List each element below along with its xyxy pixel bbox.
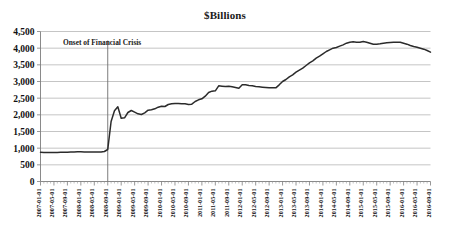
x-tick-label: 2016-01-01 [398,189,405,218]
data-series [41,42,431,153]
x-tick-label: 2010-09-01 [182,189,189,218]
x-tick-label: 2013-09-01 [303,189,310,218]
x-tick-label: 2007-05-01 [48,189,55,218]
x-tick-label: 2011-01-01 [196,189,203,218]
y-axis: 05001,0001,5002,0002,5003,0003,5004,0004… [13,27,430,187]
x-tick-label: 2008-05-01 [88,189,95,218]
x-tick-label: 2009-01-01 [115,189,122,218]
crisis-marker: Onset of Financial Crisis [63,38,141,182]
x-tick-label: 2015-09-01 [384,189,391,218]
x-tick-label: 2011-09-01 [223,189,230,218]
x-tick-label: 2009-09-01 [142,189,149,218]
x-tick-label: 2014-05-01 [330,189,337,218]
x-tick-label: 2007-09-01 [61,189,68,218]
x-tick-label: 2008-01-01 [75,189,82,218]
x-axis: 2007-01-012007-05-012007-09-012008-01-01… [35,182,432,218]
x-tick-label: 2007-01-01 [35,189,42,218]
x-tick-label: 2015-01-01 [357,189,364,218]
x-tick-label: 2012-09-01 [263,189,270,218]
x-tick-label: 2016-09-01 [425,189,432,218]
x-tick-label: 2008-09-01 [102,189,109,218]
x-tick-label: 2012-05-01 [250,189,257,218]
chart-plot-area: 05001,0001,5002,0002,5003,0003,5004,0004… [0,0,450,236]
series-line [41,42,431,153]
annotation-label: Onset of Financial Crisis [63,38,141,47]
y-tick-label: 1,000 [13,144,35,154]
x-tick-label: 2010-01-01 [156,189,163,218]
y-tick-label: 500 [20,160,35,170]
y-tick-label: 3,000 [13,77,35,87]
x-tick-label: 2009-05-01 [129,189,136,218]
y-tick-label: 3,500 [13,60,35,70]
y-tick-label: 1,500 [13,127,35,137]
y-tick-label: 2,500 [13,94,35,104]
y-tick-label: 2,000 [13,110,35,120]
y-tick-label: 4,000 [13,44,35,54]
x-tick-label: 2015-05-01 [371,189,378,218]
x-tick-label: 2011-05-01 [209,189,216,218]
gridlines [41,32,431,165]
x-tick-label: 2013-05-01 [290,189,297,218]
x-tick-label: 2014-09-01 [344,189,351,218]
x-tick-label: 2016-05-01 [411,189,418,218]
x-tick-label: 2012-01-01 [236,189,243,218]
x-tick-label: 2014-01-01 [317,189,324,218]
y-tick-label: 4,500 [13,27,35,37]
x-tick-label: 2010-05-01 [169,189,176,218]
y-tick-label: 0 [30,177,35,187]
chart-container: $Billions 05001,0001,5002,0002,5003,0003… [0,0,450,236]
x-tick-label: 2013-01-01 [277,189,284,218]
